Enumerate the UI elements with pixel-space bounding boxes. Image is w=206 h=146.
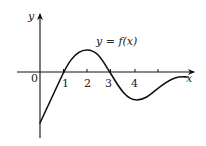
origin-label: 0 — [31, 72, 38, 85]
y-axis-label: y — [27, 10, 35, 23]
x-tick-label-1: 1 — [62, 77, 69, 90]
x-axis-label: x — [186, 72, 193, 85]
x-tick-label-2: 2 — [84, 77, 91, 90]
function-graph: y x 0 1 2 3 4 y = f(x) — [0, 0, 206, 146]
x-tick-label-3: 3 — [105, 77, 112, 90]
curve-label: y = f(x) — [95, 35, 137, 48]
x-tick-label-4: 4 — [131, 77, 138, 90]
